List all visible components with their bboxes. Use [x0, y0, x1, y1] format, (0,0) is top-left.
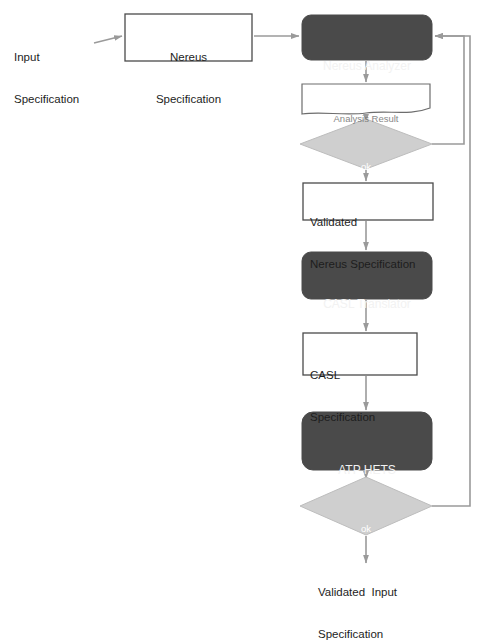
node-decision-analysis-ok	[300, 119, 432, 169]
edge-decision-ok-feedback-analyzer	[432, 36, 464, 144]
node-analysis-result	[302, 84, 430, 114]
node-casl-translator	[302, 252, 432, 299]
node-validated-nereus-specification	[303, 183, 433, 220]
node-nereus-specification	[125, 14, 252, 61]
node-decision-proof-ok	[300, 477, 432, 535]
validated-input-specification-line-2: Specification	[318, 627, 468, 641]
node-nereus-analyzer	[302, 15, 432, 60]
node-atp-hets	[302, 412, 432, 470]
edge-input-to-nereus-spec	[94, 36, 122, 43]
node-casl-specification	[303, 333, 417, 375]
